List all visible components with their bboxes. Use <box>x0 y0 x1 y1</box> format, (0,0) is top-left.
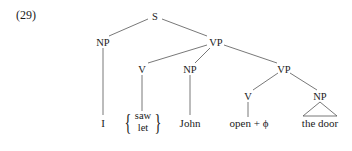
edge-vp2-v <box>253 73 278 90</box>
node-np-subject: NP <box>96 37 109 48</box>
edge-vp-vp <box>224 45 277 63</box>
leaf-lower-object: the door <box>302 117 338 129</box>
node-np-lower: NP <box>313 91 326 102</box>
triangle-np <box>303 102 337 116</box>
leaf-lower-verb: open + ϕ <box>230 117 269 129</box>
verb-option-saw: saw <box>135 110 151 122</box>
verb-option-let: let <box>138 122 149 134</box>
tree-edges <box>0 0 352 151</box>
node-v-main: V <box>138 64 146 75</box>
node-np-object: NP <box>183 64 196 75</box>
verb-alternatives: { saw let } <box>122 110 163 134</box>
edge-vp2-np <box>290 73 317 90</box>
node-vp-top: VP <box>209 37 222 48</box>
right-brace: } <box>154 110 161 134</box>
leaf-subject: I <box>101 117 105 129</box>
left-brace: { <box>125 110 132 134</box>
leaf-object: John <box>180 117 201 129</box>
node-vp-lower: VP <box>277 64 290 75</box>
edge-s-vp <box>162 19 207 36</box>
edge-vp-np <box>195 48 210 63</box>
node-s: S <box>152 11 158 22</box>
edge-s-np <box>109 19 148 36</box>
node-v-lower: V <box>244 91 252 102</box>
